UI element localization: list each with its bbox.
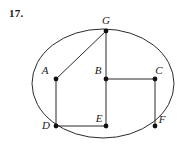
point-marker-d	[54, 124, 59, 129]
point-marker-b	[104, 77, 109, 82]
point-marker-c	[153, 77, 158, 82]
point-label-c: C	[155, 64, 163, 76]
point-marker-f	[153, 124, 158, 129]
point-marker-e	[104, 124, 109, 129]
point-label-a: A	[41, 64, 49, 76]
point-label-d: D	[41, 119, 50, 131]
figure-page: 17. A B C D E F G	[0, 0, 186, 150]
point-label-b: B	[95, 64, 102, 76]
point-marker-a	[54, 77, 59, 82]
point-label-f: F	[158, 113, 166, 125]
circle-outline	[32, 29, 174, 138]
point-marker-g	[104, 29, 109, 34]
point-label-g: G	[102, 14, 110, 26]
geometry-figure: A B C D E F G	[0, 0, 186, 150]
point-label-e: E	[95, 112, 103, 124]
